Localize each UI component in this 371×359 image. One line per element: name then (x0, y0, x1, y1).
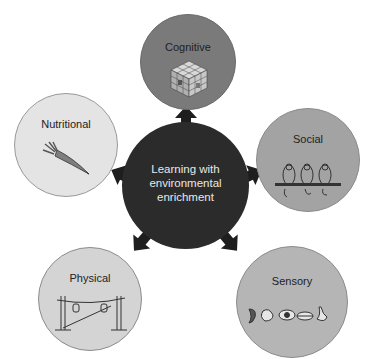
birds-on-perch-icon (273, 163, 343, 197)
sense-organs-icon (245, 305, 329, 325)
node-cognitive: Cognitive (140, 14, 236, 110)
rubiks-cube-icon (169, 61, 209, 97)
node-cognitive-label: Cognitive (141, 41, 235, 53)
center-label-line-1: Learning with (122, 162, 249, 176)
node-social: Social (256, 108, 360, 212)
node-physical: Physical (38, 247, 142, 351)
center-label-line-3: enrichment (122, 190, 249, 204)
center-label-line-2: environmental (122, 176, 249, 190)
node-social-label: Social (257, 133, 359, 145)
node-nutritional-label: Nutritional (15, 118, 117, 130)
node-nutritional: Nutritional (14, 93, 118, 197)
center-node: Learning with environmental enrichment (122, 122, 249, 249)
node-sensory: Sensory (236, 246, 348, 358)
node-sensory-label: Sensory (237, 275, 347, 287)
node-physical-label: Physical (39, 272, 141, 284)
carrot-icon (43, 142, 93, 178)
rope-swing-icon (53, 292, 127, 332)
